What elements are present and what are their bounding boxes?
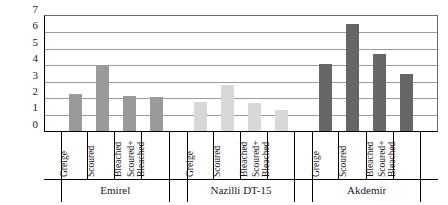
- bar-emirel-bleached[interactable]: [123, 96, 136, 131]
- bar-cell: [214, 16, 241, 131]
- bar-emirel-scoured[interactable]: [96, 65, 109, 131]
- category-label: Bleached: [239, 142, 249, 177]
- category-label-line1: Scoured+: [377, 133, 387, 177]
- category-axis: GreigeScouredBleachedScoured+BleachedGre…: [44, 132, 438, 180]
- category-label-line1: Scoured: [86, 146, 96, 177]
- category-tick-scoured: Scoured: [339, 132, 366, 179]
- category-label-line1: Scoured+: [126, 133, 136, 177]
- cat-group-2: GreigeScouredBleachedScoured+Bleached: [312, 132, 421, 179]
- category-label: Scoured+Bleached: [251, 133, 271, 177]
- category-tick-greige: Greige: [312, 132, 339, 179]
- category-label-line2: Bleached: [261, 133, 271, 177]
- bar-group-akdemir: [312, 16, 420, 131]
- category-label-line1: Bleached: [365, 142, 375, 177]
- y-tick-7: 7: [22, 4, 38, 15]
- category-label-line1: Greige: [185, 151, 195, 177]
- bar-nazilli-dt-15-scoured[interactable]: [221, 85, 234, 131]
- category-tick-greige: Greige: [187, 132, 214, 179]
- bar-emirel-greige[interactable]: [69, 94, 82, 131]
- bar-nazilli-dt-15-greige[interactable]: [194, 102, 207, 131]
- category-tick-scoured-: Scoured+Bleached: [142, 132, 169, 179]
- bar-akdemir-scoured-bleached[interactable]: [400, 74, 413, 132]
- variety-gap-1: [295, 180, 312, 202]
- category-label-line1: Bleached: [113, 142, 123, 177]
- bar-cell: [143, 16, 170, 131]
- y-tick-0: 0: [22, 119, 38, 130]
- bar-cell: [187, 16, 214, 131]
- category-label: Bleached: [365, 142, 375, 177]
- cat-group-0: GreigeScouredBleachedScoured+Bleached: [61, 132, 170, 179]
- category-label: Greige: [59, 151, 69, 177]
- bar-cell: [312, 16, 339, 131]
- category-tick-scoured-: Scoured+Bleached: [268, 132, 295, 179]
- bars-gap-1: [295, 16, 312, 131]
- bar-cell: [339, 16, 366, 131]
- y-tick-2: 2: [22, 86, 38, 97]
- bars-gap-0: [170, 16, 187, 131]
- y-axis-tick-labels: 7 6 5 4 3 2 1 0: [22, 10, 38, 136]
- bar-akdemir-bleached[interactable]: [373, 54, 386, 131]
- bar-chart: K/S (Color strength) 7 6 5 4 3 2 1 0 Gre…: [0, 0, 448, 205]
- variety-label-akdemir: Akdemir: [312, 180, 421, 202]
- variety-axis: EmirelNazilli DT-15Akdemir: [44, 180, 438, 202]
- bar-nazilli-dt-15-bleached[interactable]: [248, 103, 261, 131]
- category-label: Scoured+Bleached: [377, 133, 397, 177]
- category-tick-scoured: Scoured: [214, 132, 241, 179]
- bar-cell: [393, 16, 420, 131]
- bar-akdemir-scoured[interactable]: [346, 24, 359, 131]
- category-tick-scoured: Scoured: [88, 132, 115, 179]
- variety-label-nazilli-dt-15: Nazilli DT-15: [187, 180, 296, 202]
- cat-gap-2: [421, 132, 438, 179]
- bar-nazilli-dt-15-scoured-bleached[interactable]: [275, 110, 288, 131]
- cat-gap-1: [295, 132, 312, 179]
- variety-gap-2: [421, 180, 438, 202]
- category-label: Scoured: [212, 146, 222, 177]
- variety-gap-0: [170, 180, 187, 202]
- variety-label-emirel: Emirel: [61, 180, 170, 202]
- y-tick-3: 3: [22, 70, 38, 81]
- category-label: Scoured+Bleached: [126, 133, 146, 177]
- bar-cell: [62, 16, 89, 131]
- category-label: Greige: [185, 151, 195, 177]
- bar-akdemir-greige[interactable]: [319, 64, 332, 131]
- category-label: Bleached: [113, 142, 123, 177]
- category-label-line2: Bleached: [387, 133, 397, 177]
- variety-leading-gap: [44, 180, 61, 202]
- category-label: Scoured: [338, 146, 348, 177]
- y-tick-4: 4: [22, 53, 38, 64]
- category-label-line1: Bleached: [239, 142, 249, 177]
- bars-layer: [45, 16, 437, 131]
- bar-emirel-scoured-bleached[interactable]: [150, 97, 163, 132]
- category-label-line1: Scoured+: [251, 133, 261, 177]
- category-label-line1: Greige: [311, 151, 321, 177]
- bar-cell: [241, 16, 268, 131]
- category-label: Scoured: [86, 146, 96, 177]
- category-label-line1: Scoured: [338, 146, 348, 177]
- bars-gap-2: [420, 16, 437, 131]
- bar-group-emirel: [62, 16, 170, 131]
- category-label-line2: Bleached: [136, 133, 146, 177]
- category-tick-greige: Greige: [61, 132, 88, 179]
- plot-area: [44, 15, 438, 132]
- y-tick-6: 6: [22, 20, 38, 31]
- category-label-line1: Scoured: [212, 146, 222, 177]
- y-tick-1: 1: [22, 102, 38, 113]
- bar-cell: [89, 16, 116, 131]
- y-tick-5: 5: [22, 37, 38, 48]
- category-label-line1: Greige: [59, 151, 69, 177]
- cat-group-1: GreigeScouredBleachedScoured+Bleached: [187, 132, 296, 179]
- bar-cell: [366, 16, 393, 131]
- category-tick-scoured-: Scoured+Bleached: [394, 132, 421, 179]
- category-label: Greige: [311, 151, 321, 177]
- bar-group-nazilli-dt-15: [187, 16, 295, 131]
- bar-cell: [268, 16, 295, 131]
- bars-leading-gap: [45, 16, 62, 131]
- bar-cell: [116, 16, 143, 131]
